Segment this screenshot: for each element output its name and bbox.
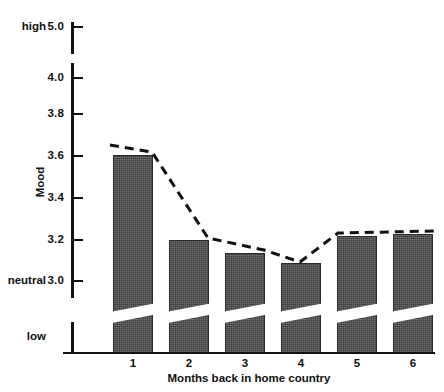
y-anchor-label-low: low <box>0 330 46 342</box>
x-tick-label-4: 4 <box>281 357 321 369</box>
y-tick-5-0 <box>74 26 83 28</box>
x-tick-label-6: 6 <box>393 357 433 369</box>
y-tick-label-3-2: 3.2 <box>18 233 64 245</box>
x-tick-label-5: 5 <box>337 357 377 369</box>
y-tick-3-2 <box>74 239 83 241</box>
x-tick-label-2: 2 <box>169 357 209 369</box>
x-axis-title: Months back in home country <box>63 372 435 384</box>
bar-3 <box>225 253 265 353</box>
x-tick-label-3: 3 <box>225 357 265 369</box>
y-tick-4-0 <box>74 77 83 79</box>
y-anchor-label-neutral: neutral <box>0 274 46 286</box>
bar-5 <box>337 236 377 353</box>
y-tick-label-3-8: 3.8 <box>18 107 64 119</box>
y-axis-segment-bottom <box>71 322 74 354</box>
bar-1 <box>113 155 153 353</box>
mood-bar-chart: 5.0 4.0 3.8 3.6 3.4 3.2 3.0 high neutral… <box>0 0 444 392</box>
x-axis-line <box>63 352 435 354</box>
bar-2 <box>169 240 209 353</box>
bar-6 <box>393 234 433 353</box>
y-axis-segment-main <box>71 63 74 298</box>
y-axis-title: Mood <box>34 152 46 212</box>
y-tick-label-4-0: 4.0 <box>18 71 64 83</box>
mood-trend-dashed-line <box>0 0 444 392</box>
y-tick-3-6 <box>74 155 83 157</box>
y-anchor-label-high: high <box>0 20 46 32</box>
bar-4 <box>281 263 321 353</box>
y-tick-3-4 <box>74 197 83 199</box>
y-tick-3-8 <box>74 113 83 115</box>
x-tick-label-1: 1 <box>113 357 153 369</box>
y-tick-3-0 <box>74 280 83 282</box>
